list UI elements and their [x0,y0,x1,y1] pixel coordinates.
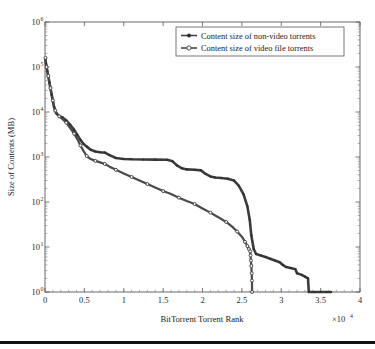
x-multiplier-exponent: 4 [350,313,353,319]
x-tick-label: 1 [122,295,126,305]
data-point-marker [53,106,55,108]
y-tick-label: 10 [32,197,41,207]
data-point-marker [46,70,48,72]
data-point-marker [255,253,257,255]
legend-marker-filled-dot-icon [187,34,191,38]
page-bottom-rule [0,341,375,344]
y-tick-label-exponent: 1 [41,241,44,247]
y-tick-label-exponent: 5 [41,61,44,67]
data-point-marker [172,160,174,162]
data-point-marker [313,291,315,293]
data-point-marker [250,279,253,282]
data-point-marker [214,176,216,178]
y-axis-label: Size of Contents (MB) [6,118,16,196]
legend-marker-open-circle-icon [187,46,191,50]
data-point-marker [260,254,262,256]
data-point-marker [330,291,332,293]
data-point-marker [244,240,247,243]
legend-label-1: Content size of video file torrents [201,44,313,53]
data-point-marker [123,158,125,160]
data-point-marker [90,149,92,151]
data-point-marker [94,159,97,162]
data-point-marker [48,82,50,84]
y-axis-ticks [45,22,360,292]
x-axis-label: BitTorrent Torrent Rank [160,314,244,324]
y-tick-label: 10 [32,17,41,27]
data-point-marker [249,250,252,253]
data-point-marker [176,165,178,167]
chart-legend[interactable]: Content size of non-video torrentsConten… [176,27,344,56]
data-point-marker [142,158,144,160]
data-point-marker [209,211,212,214]
data-point-marker [194,169,196,171]
data-point-marker [320,291,322,293]
data-point-marker [56,113,58,115]
data-point-marker [99,151,101,153]
y-tick-label: 10 [32,287,41,297]
data-point-marker [131,158,133,160]
data-point-marker [44,56,47,59]
data-point-marker [250,272,253,275]
data-point-marker [269,258,271,260]
data-point-marker [326,291,328,293]
x-axis-tick-labels: 00.511.522.533.54 [43,295,363,305]
data-series-group [45,58,330,292]
x-tick-label: 4 [358,295,363,305]
legend-label-0: Content size of non-video torrents [201,32,315,41]
data-markers-group [44,56,332,293]
data-point-marker [186,168,188,170]
data-point-marker [246,245,249,248]
data-point-marker [307,277,309,279]
y-tick-label-exponent: 3 [41,151,44,157]
y-axis-tick-labels: 100101102103104105106 [32,16,44,298]
data-point-marker [130,175,133,178]
series-line-non-video [45,59,330,292]
data-point-marker [86,146,88,148]
x-tick-label: 2.5 [237,295,248,305]
data-point-marker [250,234,252,236]
data-point-marker [238,185,240,187]
data-point-marker [65,121,68,124]
data-point-marker [249,254,252,257]
data-point-marker [76,134,78,136]
data-point-marker [61,116,63,118]
data-point-marker [83,143,85,145]
x-tick-label: 3.5 [315,295,326,305]
y-tick-label: 10 [32,242,41,252]
data-point-marker [73,132,76,135]
data-point-marker [69,124,71,126]
data-point-marker [225,220,228,223]
data-point-marker [177,196,180,199]
x-tick-label: 1.5 [158,295,169,305]
y-tick-label-exponent: 2 [41,196,44,202]
data-point-marker [220,177,222,179]
data-point-marker [209,175,211,177]
data-point-marker [154,159,156,161]
data-point-marker [308,291,310,293]
y-tick-label: 10 [32,152,41,162]
data-point-marker [250,264,253,267]
data-point-marker [103,162,106,165]
data-point-marker [294,268,296,270]
data-point-marker [45,66,48,69]
data-point-marker [296,272,298,274]
data-point-marker [282,264,284,266]
figure-container: 00.511.522.533.54 100101102103104105106 … [0,0,375,349]
data-point-marker [109,154,111,156]
data-point-marker [205,173,207,175]
y-tick-label-exponent: 0 [41,286,44,292]
data-point-marker [51,94,53,96]
plot-frame [45,22,360,292]
x-tick-label: 2 [200,295,204,305]
data-point-marker [94,151,96,153]
chart-canvas: 00.511.522.533.54 100101102103104105106 … [0,0,375,349]
x-tick-label: 0.5 [79,295,90,305]
data-point-marker [290,267,292,269]
data-point-marker [54,109,57,112]
data-point-marker [193,203,196,206]
data-point-marker [246,205,248,207]
data-point-marker [236,230,239,233]
y-tick-label: 10 [32,62,41,72]
data-point-marker [79,139,81,141]
data-point-marker [181,167,183,169]
